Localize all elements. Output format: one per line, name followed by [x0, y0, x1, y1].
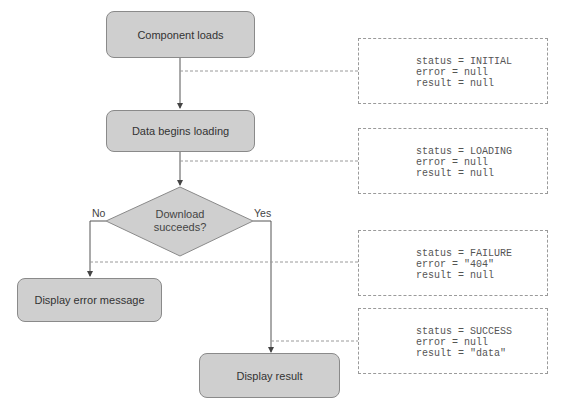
- node-label: Display result: [236, 370, 302, 382]
- arrow-yes-branch: [253, 221, 271, 352]
- state-box-initial: status = INITIALerror = nullresult = nul…: [358, 38, 548, 104]
- node-display-error-message: Display error message: [17, 278, 162, 322]
- node-label: Component loads: [137, 29, 223, 41]
- state-box-success: status = SUCCESSerror = nullresult = "da…: [358, 308, 548, 374]
- state-code: status = LOADINGerror = nullresult = nul…: [416, 146, 512, 179]
- node-component-loads: Component loads: [106, 11, 255, 58]
- branch-label-no: No: [92, 207, 105, 219]
- state-code: status = FAILUREerror = "404"result = nu…: [416, 248, 512, 281]
- node-data-begins-loading: Data begins loading: [106, 110, 255, 152]
- state-code: status = SUCCESSerror = nullresult = "da…: [416, 326, 512, 359]
- node-label: Display error message: [34, 294, 144, 306]
- node-display-result: Display result: [199, 353, 340, 398]
- decision-label: Download succeeds?: [130, 208, 230, 234]
- state-box-failure: status = FAILUREerror = "404"result = nu…: [358, 230, 548, 296]
- arrow-no-branch: [90, 221, 106, 276]
- state-code: status = INITIALerror = nullresult = nul…: [416, 56, 512, 89]
- node-label: Data begins loading: [132, 125, 229, 137]
- branch-label-yes: Yes: [254, 207, 271, 219]
- state-box-loading: status = LOADINGerror = nullresult = nul…: [358, 128, 548, 194]
- flowchart: Component loads Data begins loading Down…: [0, 0, 563, 413]
